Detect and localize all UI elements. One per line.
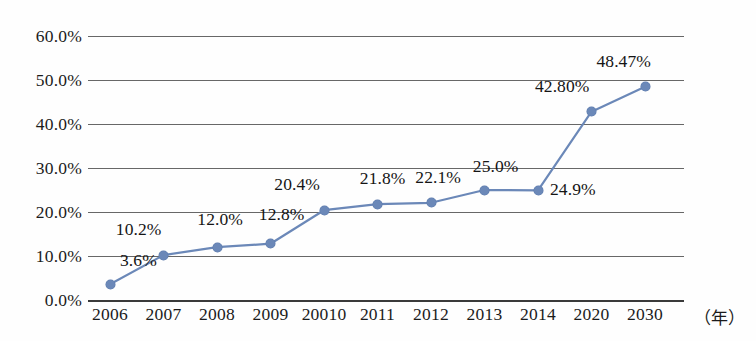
x-tick-2014: 2014 xyxy=(520,304,556,325)
x-tick-2011: 2011 xyxy=(360,304,395,325)
x-axis-unit-label: （年） xyxy=(694,304,745,329)
x-tick-20010: 20010 xyxy=(302,304,347,325)
x-tick-2020: 2020 xyxy=(574,304,610,325)
plot-area: 3.6%10.2%12.0%12.8%20.4%21.8%22.1%25.0%2… xyxy=(88,36,684,300)
data-point-20010[interactable] xyxy=(320,206,329,215)
y-axis-ticks: 60.0% 50.0% 40.0% 30.0% 20.0% 10.0% 0.0% xyxy=(0,36,82,300)
data-point-2008[interactable] xyxy=(213,243,222,252)
y-tick-30: 30.0% xyxy=(6,158,82,179)
x-tick-2007: 2007 xyxy=(146,304,182,325)
x-tick-2009: 2009 xyxy=(253,304,289,325)
data-point-2012[interactable] xyxy=(427,198,436,207)
data-label-2007: 10.2% xyxy=(116,219,162,240)
x-axis-ticks: 2006200720082009200102011201220132014202… xyxy=(88,302,684,336)
data-point-2007[interactable] xyxy=(159,251,168,260)
data-label-2012: 22.1% xyxy=(415,166,461,187)
x-tick-2006: 2006 xyxy=(92,304,128,325)
data-label-2014: 24.9% xyxy=(550,179,596,200)
y-tick-40: 40.0% xyxy=(6,114,82,135)
y-tick-10: 10.0% xyxy=(6,246,82,267)
line-chart: 3.6%10.2%12.0%12.8%20.4%21.8%22.1%25.0%2… xyxy=(0,0,756,341)
y-tick-20: 20.0% xyxy=(6,202,82,223)
data-label-2009: 12.8% xyxy=(259,203,305,224)
data-point-2030[interactable] xyxy=(641,82,650,91)
data-label-2013: 25.0% xyxy=(473,156,519,177)
data-label-2006: 3.6% xyxy=(120,250,157,271)
data-label-2008: 12.0% xyxy=(197,209,243,230)
data-point-2006[interactable] xyxy=(106,280,115,289)
x-tick-2008: 2008 xyxy=(199,304,235,325)
data-label-2030: 48.47% xyxy=(596,50,651,71)
data-label-2020: 42.80% xyxy=(535,75,590,96)
data-label-20010: 20.4% xyxy=(274,174,320,195)
x-tick-2030: 2030 xyxy=(627,304,663,325)
x-tick-2012: 2012 xyxy=(413,304,449,325)
y-tick-0: 0.0% xyxy=(6,290,82,311)
y-tick-60: 60.0% xyxy=(6,26,82,47)
x-tick-2013: 2013 xyxy=(467,304,503,325)
data-point-2014[interactable] xyxy=(534,186,543,195)
data-point-2013[interactable] xyxy=(480,186,489,195)
y-tick-50: 50.0% xyxy=(6,70,82,91)
data-point-2011[interactable] xyxy=(373,200,382,209)
data-label-2011: 21.8% xyxy=(360,168,406,189)
